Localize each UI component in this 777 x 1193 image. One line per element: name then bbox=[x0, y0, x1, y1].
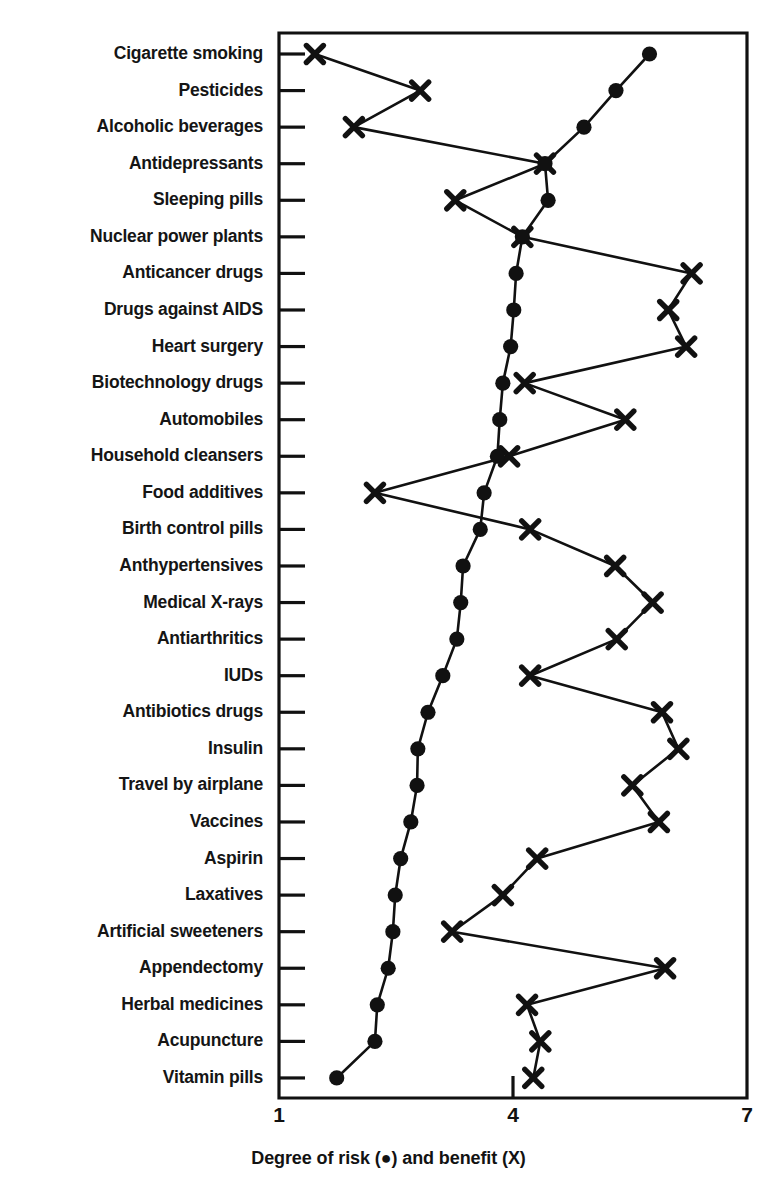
benefit-marker-x-icon bbox=[608, 631, 625, 648]
benefit-marker-x-icon bbox=[519, 996, 536, 1013]
risk-marker-dot-icon bbox=[492, 412, 507, 427]
plot-area bbox=[0, 0, 777, 1193]
risk-marker-dot-icon bbox=[449, 632, 464, 647]
benefit-marker-x-icon bbox=[653, 704, 670, 721]
risk-marker-dot-icon bbox=[473, 522, 488, 537]
benefit-marker-x-icon bbox=[412, 82, 429, 99]
plot-frame bbox=[279, 33, 747, 1098]
benefit-marker-x-icon bbox=[678, 338, 695, 355]
benefit-marker-x-icon bbox=[494, 887, 511, 904]
risk-marker-dot-icon bbox=[410, 741, 425, 756]
risk-marker-dot-icon bbox=[503, 339, 518, 354]
risk-marker-dot-icon bbox=[576, 120, 591, 135]
risk-marker-dot-icon bbox=[541, 193, 556, 208]
risk-marker-dot-icon bbox=[515, 229, 530, 244]
benefit-marker-x-icon bbox=[516, 375, 533, 392]
benefit-marker-x-icon bbox=[607, 557, 624, 574]
benefit-marker-x-icon bbox=[617, 411, 634, 428]
risk-marker-dot-icon bbox=[537, 156, 552, 171]
risk-marker-dot-icon bbox=[370, 997, 385, 1012]
risk-marker-dot-icon bbox=[435, 668, 450, 683]
plot-svg bbox=[0, 0, 777, 1193]
risk-marker-dot-icon bbox=[385, 924, 400, 939]
risk-marker-dot-icon bbox=[642, 46, 657, 61]
risk-line bbox=[337, 54, 650, 1078]
risk-marker-dot-icon bbox=[453, 595, 468, 610]
risk-marker-dot-icon bbox=[455, 558, 470, 573]
risk-marker-dot-icon bbox=[388, 888, 403, 903]
x-axis-tick-label: 4 bbox=[507, 1104, 519, 1125]
benefit-marker-x-icon bbox=[529, 850, 546, 867]
benefit-marker-x-icon bbox=[522, 667, 539, 684]
risk-marker-dot-icon bbox=[367, 1034, 382, 1049]
benefit-marker-x-icon bbox=[670, 740, 687, 757]
benefit-line bbox=[315, 54, 692, 1078]
x-axis-title: Degree of risk (●) and benefit (X) bbox=[0, 1148, 777, 1169]
x-axis-tick-label: 1 bbox=[273, 1104, 285, 1125]
chart-figure: Cigarette smokingPesticidesAlcoholic bev… bbox=[0, 0, 777, 1193]
risk-marker-dot-icon bbox=[509, 266, 524, 281]
risk-marker-dot-icon bbox=[393, 851, 408, 866]
benefit-marker-x-icon bbox=[447, 192, 464, 209]
risk-marker-dot-icon bbox=[420, 705, 435, 720]
x-axis-tick-label: 7 bbox=[741, 1104, 753, 1125]
risk-marker-dot-icon bbox=[490, 449, 505, 464]
risk-marker-dot-icon bbox=[409, 778, 424, 793]
benefit-marker-x-icon bbox=[624, 777, 641, 794]
benefit-marker-x-icon bbox=[306, 46, 323, 63]
benefit-marker-x-icon bbox=[522, 521, 539, 538]
risk-marker-dot-icon bbox=[495, 376, 510, 391]
risk-marker-dot-icon bbox=[506, 302, 521, 317]
risk-marker-dot-icon bbox=[608, 83, 623, 98]
benefit-marker-x-icon bbox=[650, 813, 667, 830]
risk-marker-dot-icon bbox=[329, 1070, 344, 1085]
benefit-marker-x-icon bbox=[660, 301, 677, 318]
risk-marker-dot-icon bbox=[477, 485, 492, 500]
risk-marker-dot-icon bbox=[381, 961, 396, 976]
risk-marker-dot-icon bbox=[403, 814, 418, 829]
benefit-marker-x-icon bbox=[366, 484, 383, 501]
benefit-marker-x-icon bbox=[644, 594, 661, 611]
